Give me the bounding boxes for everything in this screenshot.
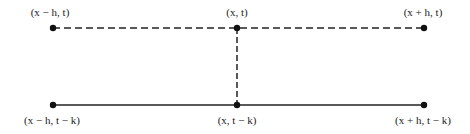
label-top-right: (x + h, t)	[404, 6, 443, 18]
node-top-center	[234, 25, 240, 31]
label-top-left: (x − h, t)	[31, 6, 70, 18]
node-top-left	[50, 25, 56, 31]
node-bottom-center	[234, 102, 240, 108]
node-bottom-left	[50, 102, 56, 108]
label-bottom-center: (x, t − k)	[218, 114, 257, 126]
node-bottom-right	[421, 102, 427, 108]
label-bottom-left: (x − h, t − k)	[24, 114, 80, 126]
label-bottom-right: (x + h, t − k)	[395, 114, 451, 126]
label-top-center: (x, t)	[226, 6, 247, 18]
node-top-right	[421, 25, 427, 31]
